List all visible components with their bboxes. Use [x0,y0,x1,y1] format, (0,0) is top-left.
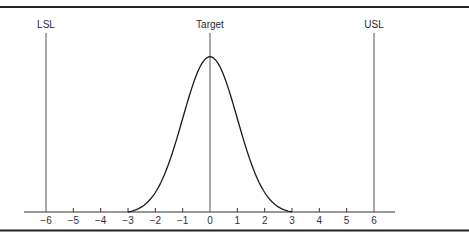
x-axis-ticks: −6−5−4−3−2−10123456 [40,208,377,226]
lsl-label: LSL [37,19,55,30]
x-tick-label: 6 [371,215,377,226]
x-tick-label: −5 [68,215,80,226]
x-tick-label: 3 [289,215,295,226]
target-label: Target [196,19,224,30]
x-tick-label: 2 [262,215,268,226]
process-capability-diagram: LSL Target USL −6−5−4−3−2−10123456 [0,0,469,238]
usl-label: USL [364,19,384,30]
x-tick-label: 5 [344,215,350,226]
x-tick-label: −6 [40,215,52,226]
x-tick-label: −2 [150,215,162,226]
x-tick-label: −3 [122,215,134,226]
x-tick-label: −4 [95,215,107,226]
x-tick-label: 0 [207,215,213,226]
x-tick-label: 4 [317,215,323,226]
x-tick-label: −1 [177,215,189,226]
x-tick-label: 1 [235,215,241,226]
